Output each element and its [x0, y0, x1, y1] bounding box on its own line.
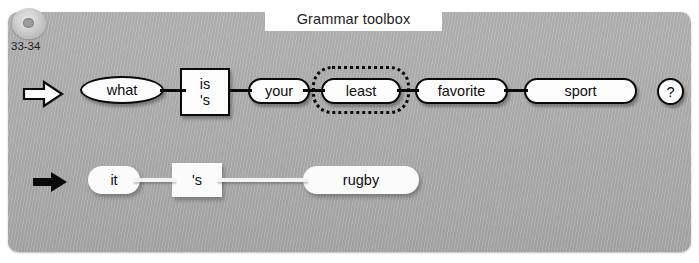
token-it-label: it [110, 172, 117, 188]
token-rugby[interactable]: rugby [303, 166, 419, 194]
token-your-label: your [265, 83, 293, 99]
page-title: Grammar toolbox [297, 11, 411, 27]
token-favorite-label: favorite [438, 83, 486, 99]
connector-what-is [160, 89, 186, 92]
connector-is-your [228, 89, 252, 92]
connector-s-rugby [218, 178, 308, 182]
token-your[interactable]: your [248, 78, 310, 104]
token-what-label: what [107, 82, 138, 98]
token-is-s[interactable]: is 's [180, 68, 230, 116]
token-sport[interactable]: sport [524, 78, 637, 104]
selection-outline-least [312, 66, 410, 114]
connector-it-s [134, 178, 176, 182]
grammar-toolbox-panel [8, 12, 691, 252]
white-right-arrow-icon [22, 80, 64, 112]
token-favorite[interactable]: favorite [415, 78, 508, 104]
token-rugby-label: rugby [343, 172, 379, 188]
cd-track-label: 33-34 [11, 40, 40, 52]
token-sport-label: sport [564, 83, 596, 99]
token-question-mark[interactable]: ? [657, 78, 684, 105]
black-right-arrow-icon [32, 170, 68, 198]
token-is-label: is [200, 77, 210, 92]
token-it[interactable]: it [88, 166, 140, 194]
token-s-contraction[interactable]: 's [172, 163, 222, 197]
answer-row: it 's rugby [0, 162, 699, 202]
token-question-mark-label: ? [666, 84, 674, 100]
title-banner: Grammar toolbox [265, 6, 442, 31]
connector-favorite-sport [504, 89, 528, 92]
cd-disc-hub [23, 18, 34, 28]
cd-disc-icon[interactable] [12, 8, 48, 41]
token-s-contraction-label: 's [192, 172, 202, 188]
token-what[interactable]: what [80, 76, 164, 104]
token-s-label: 's [200, 93, 210, 108]
